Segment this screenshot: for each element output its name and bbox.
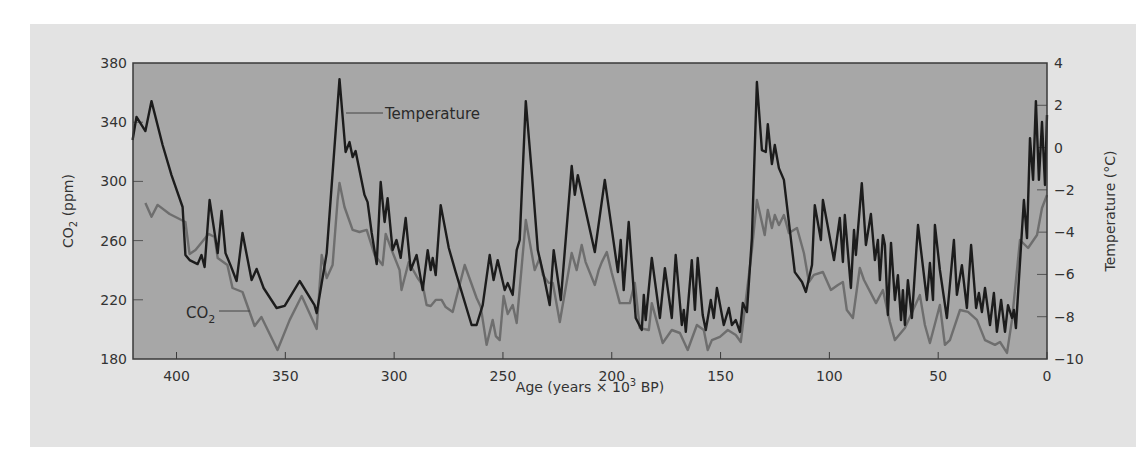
y-left-tick-label: 300 [100, 173, 127, 189]
chart-svg: 180220260300340380 −10−8−6−4−2024 400350… [0, 0, 1138, 467]
x-tick-label: 300 [381, 368, 408, 384]
y-right-tick-label: −2 [1054, 182, 1075, 198]
y-left-tick-label: 340 [100, 114, 127, 130]
x-tick-label: 250 [490, 368, 517, 384]
y-right-tick-label: 0 [1054, 140, 1063, 156]
y-axis-left-title: CO2 (ppm) [60, 174, 79, 248]
y-right-tick-label: −6 [1054, 266, 1075, 282]
y-right-tick-label: −8 [1054, 309, 1075, 325]
x-tick-label: 0 [1043, 368, 1052, 384]
y-right-tick-label: 4 [1054, 55, 1063, 71]
x-tick-label: 400 [163, 368, 190, 384]
x-tick-label: 100 [816, 368, 843, 384]
temperature-series-label: Temperature [384, 105, 480, 123]
y-right-tick-label: −10 [1054, 351, 1084, 367]
x-axis-title: Age (years × 103 BP) [516, 377, 664, 395]
x-tick-label: 150 [707, 368, 734, 384]
y-axis-right-title: Temperature (°C) [1102, 151, 1118, 273]
x-tick-label: 350 [272, 368, 299, 384]
y-left-tick-label: 260 [100, 233, 127, 249]
x-tick-label: 50 [929, 368, 947, 384]
y-left-tick-label: 380 [100, 55, 127, 71]
y-left-tick-label: 180 [100, 351, 127, 367]
y-left-tick-label: 220 [100, 292, 127, 308]
y-right-tick-label: 2 [1054, 97, 1063, 113]
y-right-tick-label: −4 [1054, 224, 1075, 240]
